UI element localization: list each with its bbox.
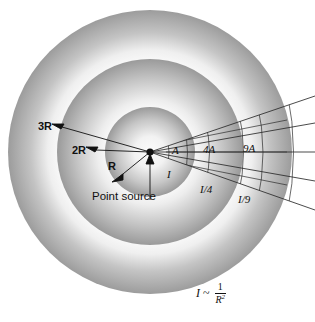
label-area-a: A xyxy=(172,144,179,156)
label-area-9a: 9A xyxy=(243,142,255,154)
diagram-canvas xyxy=(0,0,315,322)
inverse-square-formula: I ~ 1 R2 xyxy=(196,282,228,305)
inverse-square-law-diagram: 3R 2R R Point source A 4A 9A I I/4 I/9 I… xyxy=(0,0,315,322)
label-point-source: Point source xyxy=(92,190,156,202)
label-area-4a: 4A xyxy=(203,143,215,155)
formula-variable: I xyxy=(196,286,200,301)
label-3r: 3R xyxy=(38,120,52,132)
point-source-dot xyxy=(146,148,153,155)
formula-fraction: 1 R2 xyxy=(213,282,229,305)
label-intensity-i: I xyxy=(167,168,171,180)
formula-exponent: 2 xyxy=(222,293,226,301)
label-intensity-i9: I/9 xyxy=(238,193,250,205)
label-2r: 2R xyxy=(72,144,86,156)
formula-relation: ~ xyxy=(202,286,211,301)
label-intensity-i4: I/4 xyxy=(200,183,212,195)
formula-denominator: R2 xyxy=(213,294,229,306)
label-r: R xyxy=(108,160,116,172)
